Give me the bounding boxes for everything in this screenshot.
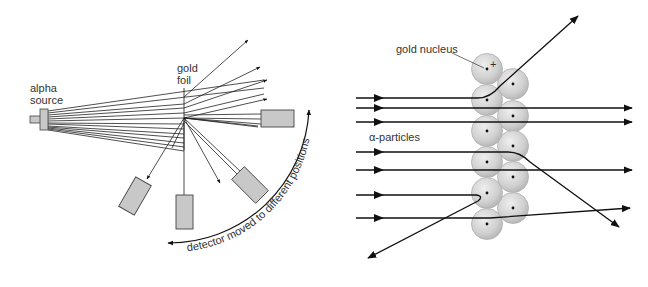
alpha-source-label-1: alpha: [30, 82, 58, 94]
detector-down: [176, 195, 193, 229]
gold-foil-label-2: foil: [177, 74, 191, 86]
rutherford-figure: alpha source gold foil: [0, 0, 648, 287]
alpha-source-label-2: source: [30, 94, 63, 106]
alpha-particles-label: α-particles: [369, 131, 420, 143]
gold-nucleus-label: gold nucleus: [396, 43, 458, 55]
gold-foil-label-1: gold: [177, 62, 198, 74]
left-apparatus-diagram: alpha source gold foil: [30, 40, 312, 253]
alpha-source-icon: [30, 109, 48, 130]
right-nucleus-diagram: + gold nucleus α-particles: [356, 16, 632, 258]
detector-lower-right: [232, 167, 269, 204]
detector-lower-left: [119, 177, 152, 215]
nucleus-charge-label: +: [490, 58, 496, 70]
detector-forward: [261, 110, 294, 127]
alpha-beam-lines: [48, 80, 264, 151]
incoming-arrowheads: [374, 94, 384, 222]
